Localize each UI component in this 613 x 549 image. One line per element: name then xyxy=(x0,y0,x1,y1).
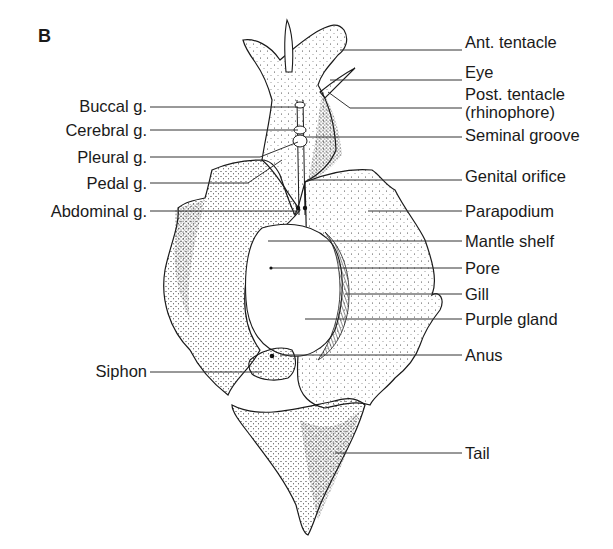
aplysia-diagram: B Ant. tentacle Eye Post. tentacle (rhin… xyxy=(0,0,613,549)
label-seminal-groove: Seminal groove xyxy=(465,126,580,144)
label-siphon: Siphon xyxy=(0,362,147,380)
aplysia-body-illustration xyxy=(0,0,613,549)
label-tail: Tail xyxy=(465,444,490,462)
panel-letter: B xyxy=(38,26,51,47)
label-genital-orifice: Genital orifice xyxy=(465,167,566,185)
label-abdominal-ganglion: Abdominal g. xyxy=(0,202,147,220)
label-parapodium: Parapodium xyxy=(465,202,554,220)
mantle-shelf xyxy=(246,224,350,360)
label-ant-tentacle: Ant. tentacle xyxy=(465,33,557,51)
label-pore: Pore xyxy=(465,259,500,277)
label-eye: Eye xyxy=(465,63,493,81)
label-gill: Gill xyxy=(465,285,489,303)
label-buccal-ganglion: Buccal g. xyxy=(0,97,147,115)
label-post-tentacle: Post. tentacle xyxy=(465,85,565,103)
tail xyxy=(232,399,365,535)
label-purple-gland: Purple gland xyxy=(465,310,558,328)
label-pedal-ganglion: Pedal g. xyxy=(0,174,147,192)
label-anus: Anus xyxy=(465,346,503,364)
label-rhinophore: (rhinophore) xyxy=(465,103,555,121)
label-mantle-shelf: Mantle shelf xyxy=(465,232,554,250)
label-pleural-ganglion: Pleural g. xyxy=(0,148,147,166)
label-cerebral-ganglion: Cerebral g. xyxy=(0,121,147,139)
